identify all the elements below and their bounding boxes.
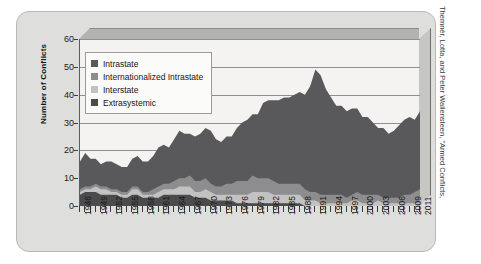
legend-label: Intrastate — [103, 59, 138, 69]
x-axis-tick-label: 1994 — [334, 196, 344, 215]
x-axis-tick — [236, 206, 237, 212]
x-axis-tick — [142, 206, 143, 212]
x-axis-tick — [79, 206, 80, 212]
x-axis-tick-label: 1967 — [193, 196, 203, 215]
legend-item: Intrastate — [91, 57, 203, 70]
y-axis-tick — [74, 150, 78, 151]
x-axis-tick-label: 1973 — [224, 196, 234, 215]
x-axis-tick — [283, 206, 284, 212]
x-axis-tick-label: 1997 — [350, 196, 360, 215]
y-axis-title: Number of Conflicts — [39, 44, 48, 124]
y-axis-tick-label: 40 — [64, 90, 74, 100]
legend-label: Interstate — [103, 85, 138, 95]
legend-item: Extrasystemic — [91, 96, 203, 109]
x-axis-tick — [173, 206, 174, 212]
x-axis-tick-label: 1952 — [114, 196, 124, 215]
y-axis-tick-label: 50 — [64, 62, 74, 72]
x-axis-tick — [205, 206, 206, 212]
x-axis-tick — [377, 206, 378, 212]
x-axis-tick-label: 1970 — [209, 196, 219, 215]
y-axis-tick-label: 20 — [64, 145, 74, 155]
x-axis-tick-label: 1961 — [161, 196, 171, 215]
x-axis-tick — [110, 206, 111, 212]
x-axis-tick — [346, 206, 347, 212]
legend-swatch-internationalized-intrastate — [91, 73, 98, 80]
x-axis-tick-label: 2003 — [381, 196, 391, 215]
plot-3d-top-cap — [79, 28, 419, 39]
x-axis-tick-label: 2009 — [413, 196, 423, 215]
x-axis-tick-label: 1958 — [146, 196, 156, 215]
legend-item: Interstate — [91, 83, 203, 96]
y-axis-tick-label: 10 — [64, 173, 74, 183]
x-axis-tick-label: 2011 — [423, 197, 433, 215]
legend-item: Internationalized Intrastate — [91, 70, 203, 83]
x-axis-tick-label: 1946 — [83, 196, 93, 215]
legend-label: Internationalized Intrastate — [103, 72, 203, 82]
y-axis-tick — [74, 67, 78, 68]
legend-swatch-extrasystemic — [91, 99, 98, 106]
x-axis-tick — [299, 206, 300, 212]
x-axis-tick — [158, 206, 159, 212]
x-axis-tick — [252, 206, 253, 212]
x-axis-tick-label: 2006 — [397, 196, 407, 215]
x-axis-tick-label: 1985 — [287, 196, 297, 215]
chart-panel: Number of Conflicts 0102030405060 194619… — [16, 11, 436, 252]
x-axis-tick-label: 1988 — [303, 196, 313, 215]
x-axis-tick-label: 2000 — [365, 196, 375, 215]
y-axis-tick — [74, 39, 78, 40]
x-axis-tick-label: 1955 — [130, 196, 140, 215]
x-axis-tick — [362, 206, 363, 212]
y-axis-tick — [74, 178, 78, 179]
y-axis-tick-label: 30 — [64, 118, 74, 128]
plot-area: 0102030405060 19461949195219551958196119… — [79, 39, 431, 212]
plot-3d-right-wall — [419, 28, 431, 206]
y-axis-tick-label: 60 — [64, 34, 74, 44]
x-axis-tick-label: 1964 — [177, 196, 187, 215]
x-axis-tick — [95, 206, 96, 212]
y-axis-tick — [74, 206, 78, 207]
legend-swatch-interstate — [91, 86, 98, 93]
x-axis-tick-label: 1976 — [240, 196, 250, 215]
legend-swatch-intrastate — [91, 60, 98, 67]
x-axis-tick — [220, 206, 221, 212]
x-axis-tick — [267, 206, 268, 212]
x-axis-tick — [314, 206, 315, 212]
x-axis-tick — [189, 206, 190, 212]
x-axis-tick-label: 1949 — [99, 196, 109, 215]
x-axis-tick-label: 1982 — [271, 196, 281, 215]
y-axis-tick — [74, 95, 78, 96]
x-axis-tick-label: 1991 — [318, 196, 328, 215]
legend-label: Extrasystemic — [103, 98, 156, 108]
x-axis-tick-label: 1979 — [256, 196, 266, 215]
chart-figure: Number of Conflicts 0102030405060 194619… — [0, 0, 481, 264]
x-axis-tick — [126, 206, 127, 212]
x-axis-tick — [409, 206, 410, 212]
legend: Intrastate Internationalized Intrastate … — [85, 52, 212, 114]
x-axis-tick — [393, 206, 394, 212]
source-citation: Themnér, Lotta, and Peter Wallensteen, "… — [438, 6, 447, 198]
y-axis-tick — [74, 123, 78, 124]
x-axis-tick — [330, 206, 331, 212]
